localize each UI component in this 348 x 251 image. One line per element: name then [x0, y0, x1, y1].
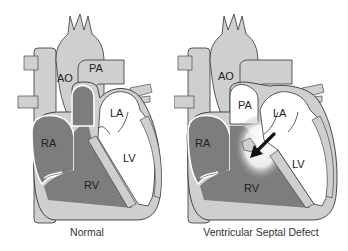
label-aorta: AO: [57, 73, 73, 84]
label-left-ventricle: LV: [123, 153, 136, 164]
label-pulmonary-artery: PA: [238, 100, 252, 111]
vsd-heart-illustration: [174, 0, 348, 251]
normal-heart-illustration: [0, 0, 174, 251]
label-left-atrium: LA: [110, 108, 123, 119]
label-pulmonary-artery: PA: [89, 63, 103, 74]
label-right-ventricle: RV: [84, 180, 99, 191]
caption-normal: Normal: [0, 227, 174, 238]
label-right-atrium: RA: [195, 138, 210, 149]
normal-heart-panel: AO PA LA LV RA RV Normal: [0, 0, 174, 251]
label-left-ventricle: LV: [292, 159, 305, 170]
caption-vsd: Ventricular Septal Defect: [174, 227, 348, 238]
label-right-ventricle: RV: [244, 183, 259, 194]
vsd-heart-panel: AO PA LA LV RA RV Ventricular Septal Def…: [174, 0, 348, 251]
label-right-atrium: RA: [41, 138, 56, 149]
rv-outflow: [72, 85, 94, 126]
label-aorta: AO: [218, 71, 234, 82]
label-left-atrium: LA: [273, 108, 286, 119]
